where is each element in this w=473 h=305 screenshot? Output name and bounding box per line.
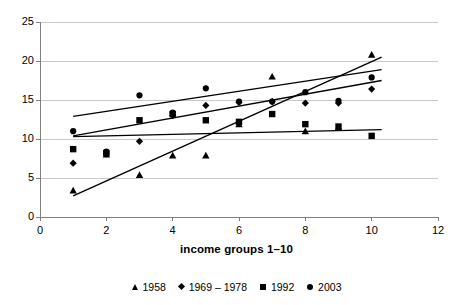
chart-legend: 1958 1969 – 1978 1992 2003	[0, 280, 473, 293]
x-axis-tick-label: 0	[20, 224, 60, 236]
legend-item-1992: 1992	[260, 280, 294, 293]
x-axis-tick-label: 2	[86, 224, 126, 236]
legend-label: 1969 – 1978	[189, 281, 247, 293]
triangle-marker-icon	[132, 284, 138, 290]
x-axis-tick-label: 10	[352, 224, 392, 236]
data-point-1969-1978	[202, 102, 209, 109]
data-point-1958	[202, 152, 209, 159]
data-point-1969-1978	[302, 100, 309, 107]
y-axis-tick-label: 10	[4, 132, 34, 144]
data-point-1958	[368, 51, 375, 58]
data-point-1992	[70, 146, 76, 152]
diamond-marker-icon	[178, 283, 185, 290]
data-point-2003	[136, 92, 142, 98]
data-point-2003	[369, 74, 375, 80]
data-point-1958	[69, 187, 76, 194]
data-point-1969-1978	[70, 160, 77, 167]
trendline-1992	[73, 130, 381, 137]
data-point-1958	[136, 171, 143, 178]
square-marker-icon	[260, 284, 266, 290]
data-point-2003	[269, 98, 275, 104]
data-point-2003	[203, 85, 209, 91]
legend-item-1958: 1958	[132, 280, 166, 293]
circle-marker-icon	[307, 284, 313, 290]
data-point-1992	[136, 117, 142, 123]
data-point-1992	[302, 121, 308, 127]
legend-label: 2003	[318, 281, 341, 293]
data-point-1969-1978	[368, 85, 375, 92]
data-point-2003	[70, 128, 76, 134]
data-point-1992	[269, 111, 275, 117]
x-axis-tick-label: 12	[418, 224, 458, 236]
legend-label: 1958	[142, 281, 165, 293]
y-axis-tick-label: 15	[4, 93, 34, 105]
data-point-2003	[236, 98, 242, 104]
x-axis-tick-label: 6	[219, 224, 259, 236]
legend-item-2003: 2003	[307, 280, 341, 293]
data-point-1992	[335, 123, 341, 129]
x-axis-tick-label: 4	[153, 224, 193, 236]
data-point-2003	[170, 109, 176, 115]
x-axis-tick-label: 8	[285, 224, 325, 236]
plot-area	[0, 0, 473, 305]
data-point-1958	[268, 73, 275, 80]
legend-label: 1992	[271, 281, 294, 293]
y-axis-tick-label: 25	[4, 15, 34, 27]
data-point-1992	[203, 117, 209, 123]
data-point-1992	[236, 119, 242, 125]
data-point-2003	[335, 98, 341, 104]
y-axis-tick-label: 20	[4, 54, 34, 66]
data-point-1992	[368, 133, 374, 139]
y-axis-tick-label: 5	[4, 171, 34, 183]
legend-item-1969-1978: 1969 – 1978	[179, 280, 247, 293]
scatter-chart: income groups 1–10 1958 1969 – 1978 1992…	[0, 0, 473, 305]
trendline-2003	[73, 70, 381, 117]
data-point-2003	[103, 148, 109, 154]
x-axis-title: income groups 1–10	[0, 243, 473, 255]
y-axis-tick-label: 0	[4, 210, 34, 222]
data-point-2003	[302, 89, 308, 95]
